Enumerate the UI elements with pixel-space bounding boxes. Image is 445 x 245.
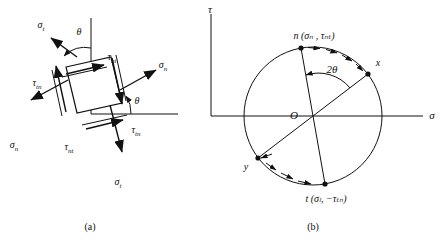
theta-top-arc [64,47,91,56]
figure-container: σt σn σn σt τnt τtn τnt [0,0,445,245]
origin-label: O [290,109,298,121]
tau-nt-left-arrow [56,66,66,112]
caption-panel-b: (b) [307,221,319,233]
mohrs-circle-drawing: τ σ O n (σₙ , τₙₜ) x t (σₗ, −τₜₙ) y 2θ (… [180,0,445,245]
point-x-marker [365,71,370,76]
label-tau-nt-bottom: τnt [64,141,74,154]
point-label-n: n (σₙ , τₙₜ) [293,30,335,42]
stress-element-drawing: σt σn σn σt τnt τtn τnt [0,0,180,245]
panel-a-stress-element: σt σn σn σt τnt τtn τnt [0,0,180,245]
left-face-line [52,70,62,116]
label-sigma-n-right: σn [159,59,168,72]
label-sigma-t-top: σt [38,19,46,32]
point-label-x: x [375,57,381,68]
label-tau-nt-top: τnt [107,51,117,64]
point-n-marker [298,45,303,50]
theta-right-arc [126,96,131,114]
label-tau-tn-left: τtn [32,77,42,90]
label-tau-tn-right: τtn [131,124,141,137]
point-t-marker [322,181,327,186]
caption-panel-a: (a) [84,221,95,233]
point-label-y: y [243,161,249,172]
sigma-t-bottom-arrow [110,105,122,152]
label-theta-top: θ [77,26,82,37]
sigma-n-right-arrow [120,70,156,90]
point-label-t: t (σₗ, −τₜₙ) [305,193,347,205]
axis-label-tau: τ [208,3,213,15]
two-theta-arc [306,73,350,88]
point-y-marker [255,155,260,160]
tau-tn-bottom-arrow [86,120,123,129]
two-theta-label: 2θ [327,63,339,75]
label-theta-right: θ [135,95,140,106]
label-sigma-n-left: σn [10,139,19,152]
sigma-t-top-arrow [51,38,77,57]
panel-b-mohrs-circle: τ σ O n (σₙ , τₙₜ) x t (σₗ, −τₜₙ) y 2θ (… [180,0,445,245]
label-sigma-t-bottom: σt [115,176,123,189]
axis-label-sigma: σ [429,109,435,121]
